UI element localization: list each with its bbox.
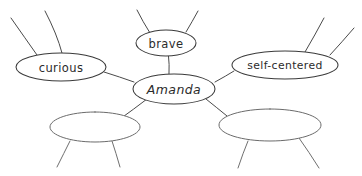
character-web-diagram: curious brave self-centered Amanda [0,0,362,176]
spoke-curious-2 [45,11,62,53]
node-curious-label: curious [39,61,84,75]
spoke-self-centered-1 [305,18,324,52]
spoke-brave-2 [186,11,198,32]
connector-amanda-to-self-centered [215,71,234,82]
spoke-self-centered-2 [330,28,354,55]
node-blank-right[interactable] [219,109,321,141]
node-curious[interactable]: curious [16,53,106,81]
node-self-centered[interactable]: self-centered [232,51,338,79]
connector-amanda-to-blank-right [206,99,227,116]
node-amanda-center[interactable]: Amanda [133,74,215,104]
connector-amanda-to-curious [104,72,134,82]
connector-amanda-to-brave [169,56,170,74]
node-self-centered-label: self-centered [247,59,323,72]
diagram-canvas: curious brave self-centered Amanda [0,0,362,176]
node-amanda-label: Amanda [146,82,201,97]
spoke-blank-left-1 [57,141,70,167]
spoke-blank-left-2 [112,141,120,167]
spoke-brave-1 [137,10,150,33]
node-blank-right-outline [219,109,321,141]
spoke-blank-right-1 [238,141,248,168]
node-blank-left[interactable] [50,112,140,142]
spoke-blank-right-2 [299,138,319,168]
node-brave[interactable]: brave [136,30,196,56]
spoke-curious-1 [11,18,37,55]
node-brave-label: brave [149,37,184,51]
node-blank-left-outline [50,112,140,142]
